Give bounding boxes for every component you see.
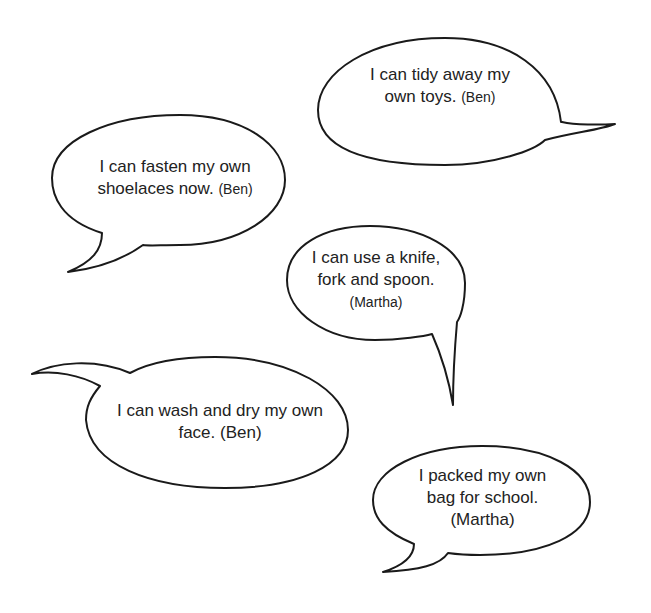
bubble-line: fork and spoon.: [290, 269, 462, 291]
bubble-line-text: face.: [178, 423, 215, 442]
bubble-line-text: own toys.: [385, 87, 457, 106]
bubble-line: I can fasten my own: [75, 156, 275, 178]
speech-bubble-packed-bag: I packed my own bag for school. (Martha): [390, 465, 575, 531]
speaker-name: (Ben): [220, 423, 262, 442]
speech-bubble-shoelaces: I can fasten my own shoelaces now. (Ben): [75, 156, 275, 200]
speaker-name: (Martha): [390, 509, 575, 531]
bubble-line: bag for school.: [390, 487, 575, 509]
speech-bubble-tidy-toys: I can tidy away my own toys. (Ben): [340, 64, 540, 108]
bubble-line: shoelaces now. (Ben): [75, 178, 275, 200]
bubble-line: I can tidy away my: [340, 64, 540, 86]
bubble-line: I can wash and dry my own: [95, 400, 345, 422]
bubble-line: own toys. (Ben): [340, 86, 540, 108]
speech-bubble-wash-face: I can wash and dry my own face. (Ben): [95, 400, 345, 444]
speaker-name: (Martha): [290, 291, 462, 313]
bubble-line: face. (Ben): [95, 422, 345, 444]
speech-bubble-knife-fork-spoon: I can use a knife, fork and spoon. (Mart…: [290, 247, 462, 313]
bubble-line-text: shoelaces now.: [97, 179, 213, 198]
speaker-name: (Ben): [218, 181, 252, 197]
bubble-line: I packed my own: [390, 465, 575, 487]
speaker-name: (Ben): [461, 89, 495, 105]
bubble-line: I can use a knife,: [290, 247, 462, 269]
